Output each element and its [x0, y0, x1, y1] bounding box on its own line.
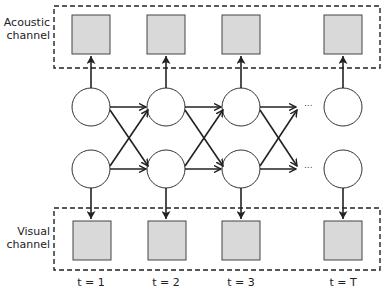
acoustic-state-tT [324, 88, 362, 126]
acoustic-observation-tT [324, 15, 362, 54]
transition-arrows-t3-next [260, 107, 297, 169]
acoustic-observation-t2 [147, 15, 185, 54]
visual-observation-t3 [222, 221, 260, 260]
visual-state-t1 [72, 150, 110, 188]
transition-arrows-t2-t3 [185, 107, 223, 169]
acoustic-label-line2: channel [0, 29, 50, 42]
acoustic-channel-label: Acoustic channel [0, 16, 50, 42]
acoustic-state-t1 [72, 88, 110, 126]
visual-observation-tT [324, 221, 362, 260]
acoustic-observation-t1 [72, 15, 110, 54]
coupled-hmm-diagram [0, 0, 387, 294]
visual-label-line1: Visual [0, 225, 50, 238]
visual-state-tT [324, 150, 362, 188]
time-label-t2: t = 2 [141, 276, 191, 289]
acoustic-label-line1: Acoustic [0, 16, 50, 29]
visual-state-t2 [147, 150, 185, 188]
acoustic-state-t3 [222, 88, 260, 126]
time-label-tT: t = T [318, 276, 368, 289]
visual-label-line2: channel [0, 238, 50, 251]
acoustic-emission-arrows [91, 56, 343, 88]
visual-observation-t2 [148, 221, 186, 260]
visual-state-t3 [222, 150, 260, 188]
visual-channel-label: Visual channel [0, 225, 50, 251]
ellipsis-top: ... [304, 98, 313, 108]
acoustic-state-t2 [147, 88, 185, 126]
visual-observation-t1 [73, 221, 111, 260]
time-label-t1: t = 1 [66, 276, 116, 289]
time-label-t3: t = 3 [216, 276, 266, 289]
acoustic-observation-t3 [222, 15, 260, 54]
visual-emission-arrows [91, 188, 343, 219]
ellipsis-bottom: ... [304, 160, 313, 170]
transition-arrows-t1-t2 [110, 107, 148, 169]
